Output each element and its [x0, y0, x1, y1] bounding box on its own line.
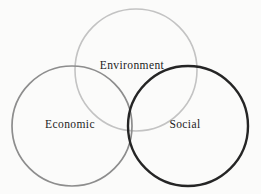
venn-label-economic: Economic — [45, 119, 95, 131]
venn-diagram-svg — [0, 0, 261, 194]
venn-label-environment: Environment — [100, 60, 164, 72]
venn-label-social: Social — [169, 119, 200, 131]
venn-diagram: Environment Economic Social — [0, 0, 261, 194]
